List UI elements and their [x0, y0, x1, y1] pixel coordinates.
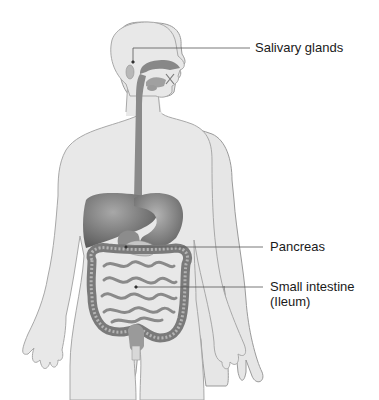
label-pancreas: Pancreas [270, 239, 325, 254]
anal-canal [132, 346, 140, 360]
salivary-gland-sublingual [147, 85, 157, 91]
digestive-system-diagram [0, 0, 379, 400]
label-salivary-glands: Salivary glands [255, 40, 343, 55]
label-small-intestine: Small intestine (Ileum) [270, 279, 355, 309]
label-small-intestine-line2: (Ileum) [270, 294, 355, 309]
label-small-intestine-line1: Small intestine [270, 279, 355, 294]
salivary-gland-parotid [126, 65, 134, 79]
